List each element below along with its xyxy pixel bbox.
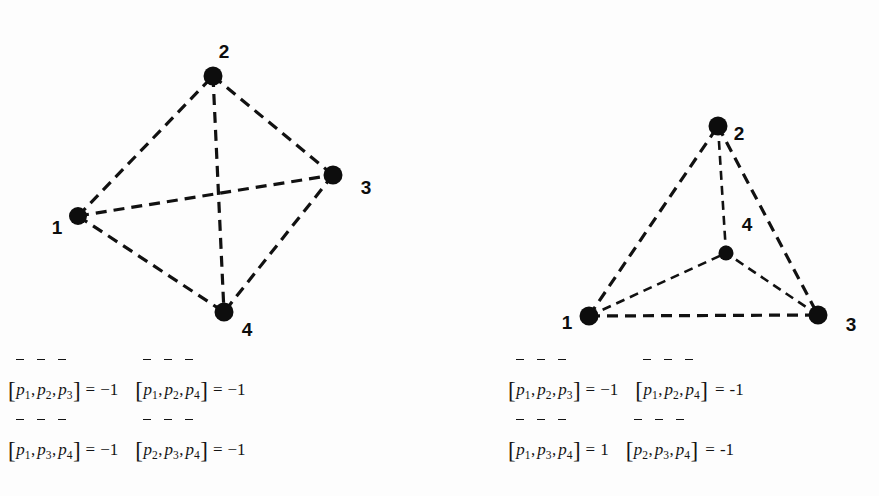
vertex-dot-4	[719, 246, 734, 261]
symbol-base: p	[16, 380, 25, 399]
p-bar-symbol-2: p2	[537, 360, 552, 425]
symbol-base: p	[516, 380, 525, 399]
chirotope-value: −1	[227, 380, 245, 399]
equation-row-1: [p1,p2,p3]=−1[p1,p2,p4]=−1	[8, 360, 246, 420]
symbol-subscript: 3	[546, 449, 552, 461]
equals-sign: =	[208, 440, 228, 459]
symbol-base: p	[516, 440, 525, 459]
p-bar-symbol-2: p2	[37, 360, 52, 425]
p-bar-symbol-4: p4	[185, 420, 200, 485]
symbol-base: p	[143, 380, 152, 399]
vertex-label-4: 4	[242, 319, 253, 340]
vertex-label-2: 2	[734, 123, 745, 144]
bracket-close: ]	[73, 438, 81, 463]
bracket-open: [	[8, 438, 16, 463]
chirotope-value: −1	[600, 380, 618, 399]
symbol-base: p	[664, 380, 673, 399]
vertex-dot-2	[204, 67, 223, 86]
edge-2-3	[213, 76, 333, 175]
symbol-base: p	[558, 380, 567, 399]
symbol-subscript: 3	[663, 449, 669, 461]
overbar-accent	[558, 419, 566, 420]
p-bar-symbol-3: p3	[558, 360, 573, 425]
symbol-subscript: 1	[25, 449, 31, 461]
chirotope-value: −1	[227, 440, 245, 459]
bracket-open: [	[508, 438, 516, 463]
symbol-subscript: 2	[546, 389, 552, 401]
overbar-accent	[643, 359, 651, 360]
symbol-subscript: 1	[652, 389, 658, 401]
bracket-open: [	[626, 438, 634, 463]
equals-sign: =	[81, 380, 101, 399]
chirotope-equation: [p1,p2,p3]=−1	[8, 360, 118, 425]
chirotope-value: 1	[600, 440, 609, 459]
edge-1-3	[589, 315, 818, 316]
point-configuration-left: 1234	[0, 0, 440, 350]
equals-sign: =	[81, 440, 101, 459]
p-bar-symbol-1: p1	[516, 420, 531, 485]
edge-1-3	[78, 175, 333, 216]
vertex-dot-4	[215, 303, 234, 322]
symbol-base: p	[143, 440, 152, 459]
vertex-label-1: 1	[52, 217, 63, 238]
overbar-accent	[634, 419, 642, 420]
symbol-base: p	[185, 440, 194, 459]
vertex-label-4: 4	[742, 214, 753, 235]
bracket-open: [	[8, 378, 16, 403]
bracket-open: [	[635, 378, 643, 403]
bracket-open: [	[135, 378, 143, 403]
overbar-accent	[558, 359, 566, 360]
chirotope-equation: [p2,p3,p4]=-1	[626, 420, 734, 485]
bracket-open: [	[508, 378, 516, 403]
overbar-accent	[516, 419, 524, 420]
p-bar-symbol-1: p1	[516, 360, 531, 425]
p-bar-symbol-3: p3	[164, 420, 179, 485]
vertex-label-2: 2	[219, 41, 230, 62]
chirotope-value: −1	[100, 440, 118, 459]
chirotope-equation: [p2,p3,p4]=−1	[135, 420, 245, 485]
symbol-subscript: 3	[567, 389, 573, 401]
symbol-base: p	[185, 380, 194, 399]
symbol-base: p	[58, 380, 67, 399]
p-bar-symbol-4: p4	[58, 420, 73, 485]
symbol-subscript: 4	[694, 389, 700, 401]
equation-row-2: [p1,p3,p4]=−1[p2,p3,p4]=−1	[8, 420, 246, 480]
edge-1-2	[589, 126, 718, 316]
overbar-accent	[537, 359, 545, 360]
symbol-subscript: 4	[67, 449, 73, 461]
equals-sign: =	[581, 380, 601, 399]
symbol-subscript: 1	[25, 389, 31, 401]
overbar-accent	[185, 419, 193, 420]
symbol-subscript: 2	[46, 389, 52, 401]
symbol-subscript: 1	[525, 449, 531, 461]
overbar-accent	[58, 419, 66, 420]
overbar-accent	[664, 359, 672, 360]
symbol-subscript: 1	[525, 389, 531, 401]
p-bar-symbol-1: p1	[143, 360, 158, 425]
symbol-base: p	[164, 380, 173, 399]
overbar-accent	[58, 359, 66, 360]
symbol-base: p	[643, 380, 652, 399]
edge-3-4	[224, 175, 333, 312]
symbol-subscript: 2	[673, 389, 679, 401]
p-bar-symbol-4: p4	[675, 420, 690, 485]
overbar-accent	[185, 359, 193, 360]
overbar-accent	[537, 419, 545, 420]
vertex-dot-1	[580, 307, 599, 326]
symbol-subscript: 2	[152, 449, 158, 461]
bracket-close: ]	[200, 438, 208, 463]
equation-block-left: [p1,p2,p3]=−1[p1,p2,p4]=−1[p1,p3,p4]=−1[…	[8, 360, 246, 480]
edge-2-4	[718, 126, 726, 253]
p-bar-symbol-2: p2	[664, 360, 679, 425]
overbar-accent	[516, 359, 524, 360]
chirotope-value: -1	[729, 380, 743, 399]
overbar-accent	[164, 419, 172, 420]
overbar-accent	[164, 359, 172, 360]
symbol-base: p	[537, 440, 546, 459]
p-bar-symbol-3: p3	[537, 420, 552, 485]
symbol-base: p	[58, 440, 67, 459]
overbar-accent	[143, 419, 151, 420]
symbol-subscript: 3	[173, 449, 179, 461]
p-bar-symbol-3: p3	[654, 420, 669, 485]
edge-2-3	[718, 126, 818, 315]
